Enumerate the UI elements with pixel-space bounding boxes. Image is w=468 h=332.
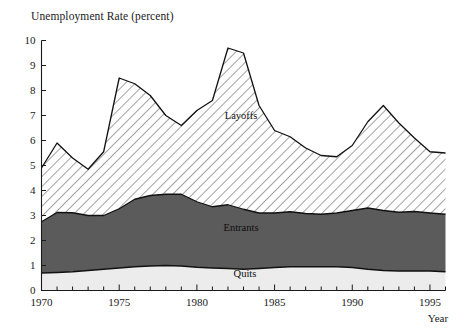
y-tick-label: 9 (30, 59, 36, 71)
y-tick-label: 10 (25, 34, 37, 46)
series-label-quits: Quits (234, 268, 257, 279)
chart-areas (42, 48, 446, 291)
x-tick-label: 1995 (419, 296, 442, 308)
y-tick-label: 5 (30, 159, 36, 171)
series-label-layoffs: Layoffs (225, 110, 257, 121)
x-axis-title: Year (428, 312, 449, 324)
x-tick-label: 1970 (31, 296, 54, 308)
chart-figure: Unemployment Rate (percent) 012345678910… (0, 0, 468, 332)
y-tick-label: 2 (30, 234, 36, 246)
x-tick-label: 1985 (264, 296, 287, 308)
y-tick-label: 0 (30, 284, 36, 296)
x-tick-label: 1990 (341, 296, 364, 308)
y-tick-label: 7 (30, 109, 36, 121)
y-tick-label: 8 (30, 84, 36, 96)
x-tick-label: 1975 (108, 296, 131, 308)
x-tick-label: 1980 (186, 296, 209, 308)
series-label-entrants: Entrants (224, 222, 259, 233)
y-tick-label: 4 (30, 184, 36, 196)
area-layoffs (42, 48, 446, 222)
stacked-area-chart: 012345678910 197019751980198519901995 La… (0, 0, 468, 332)
y-tick-label: 1 (30, 259, 36, 271)
y-tick-label: 6 (30, 134, 36, 146)
y-tick-label: 3 (30, 209, 36, 221)
